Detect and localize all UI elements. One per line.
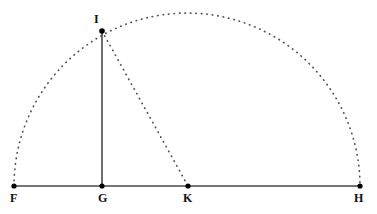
point-f [11, 183, 16, 188]
point-label-k: K [183, 192, 192, 204]
geometry-figure [0, 0, 377, 214]
point-i [99, 28, 105, 34]
point-k [185, 183, 190, 188]
point-label-f: F [10, 192, 17, 204]
point-label-h: H [354, 192, 363, 204]
point-g [99, 183, 104, 188]
point-label-i: I [94, 13, 99, 25]
semicircle-arc [14, 13, 360, 186]
point-label-g: G [98, 192, 107, 204]
point-h [357, 183, 362, 188]
segment-ik [102, 31, 188, 186]
